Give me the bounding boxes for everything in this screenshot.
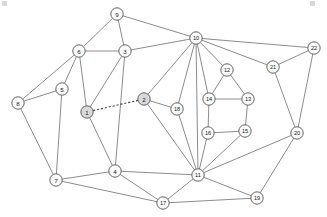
graph-edge-10-14 [197,44,207,93]
graph-node-circle-11[interactable] [192,169,204,181]
graph-node-5[interactable]: 5 [56,83,68,95]
graph-node-circle-17[interactable] [157,197,169,209]
graph-edge-16-15 [214,131,239,132]
graph-node-circle-1[interactable] [81,106,93,118]
graph-edge-20-21 [275,73,295,127]
graph-node-circle-5[interactable] [56,83,68,95]
graph-node-circle-6[interactable] [73,45,85,57]
graph-node-1[interactable]: 1 [81,106,93,118]
graph-edge-8-7 [21,109,54,175]
graph-edge-5-7 [56,95,61,174]
graph-node-circle-2[interactable] [138,93,150,105]
graph-node-16[interactable]: 16 [202,127,214,139]
graph-node-circle-13[interactable] [242,93,254,105]
graph-edge-6-5 [65,57,77,84]
graph-node-4[interactable]: 4 [109,165,121,177]
graph-node-2[interactable]: 2 [138,93,150,105]
graph-edge-10-18 [179,44,195,103]
graph-edge-11-20 [204,135,292,172]
graph-node-11[interactable]: 11 [192,169,204,181]
graph-node-circle-12[interactable] [221,64,233,76]
graph-edge-12-13 [231,75,245,94]
graph-edge-9-6 [83,18,112,46]
node-layer: 12345678910111213141516171819202122 [12,8,320,209]
graph-node-21[interactable]: 21 [267,61,279,73]
graph-edge-3-4 [116,57,125,165]
graph-edge-17-19 [169,198,251,202]
graph-edge-7-17 [62,181,157,201]
graph-node-circle-15[interactable] [239,125,251,137]
graph-edge-4-11 [121,171,192,174]
graph-node-15[interactable]: 15 [239,125,251,137]
graph-edge-6-1 [80,57,86,106]
graph-node-19[interactable]: 19 [251,192,263,204]
graph-node-14[interactable]: 14 [203,93,215,105]
graph-node-10[interactable]: 10 [190,32,202,44]
graph-edge-2-18 [150,101,171,107]
graph-node-circle-19[interactable] [251,192,263,204]
graph-node-circle-7[interactable] [50,174,62,186]
graph-edge-13-15 [246,105,248,125]
graph-edge-3-10 [131,39,190,50]
graph-edge-11-17 [168,179,193,199]
graph-node-circle-21[interactable] [267,61,279,73]
graph-canvas: 12345678910111213141516171819202122 [0,0,327,217]
graph-edge-4-17 [120,174,158,199]
graph-edge-12-14 [212,75,223,93]
graph-node-7[interactable]: 7 [50,174,62,186]
graph-node-3[interactable]: 3 [119,45,131,57]
graph-svg: 12345678910111213141516171819202122 [0,0,327,217]
graph-edge-14-16 [208,105,209,127]
graph-edge-10-12 [200,42,222,65]
graph-node-circle-8[interactable] [12,97,24,109]
graph-edge-9-10 [123,16,190,36]
graph-edge-5-8 [24,91,56,101]
graph-node-18[interactable]: 18 [171,103,183,115]
graph-node-6[interactable]: 6 [73,45,85,57]
graph-node-22[interactable]: 22 [308,42,320,54]
graph-edge-2-10 [148,43,192,95]
graph-node-circle-10[interactable] [190,32,202,44]
graph-node-circle-9[interactable] [111,8,123,20]
graph-node-9[interactable]: 9 [111,8,123,20]
graph-node-circle-20[interactable] [291,127,303,139]
graph-edge-21-22 [279,51,309,65]
graph-node-circle-18[interactable] [171,103,183,115]
graph-node-13[interactable]: 13 [242,93,254,105]
graph-edge-10-21 [202,40,267,65]
graph-edge-7-4 [62,172,109,179]
graph-edge-10-11 [196,44,198,169]
graph-edge-20-22 [298,54,313,127]
graph-edge-11-19 [204,177,251,196]
graph-edge-16-11 [199,139,206,169]
graph-edge-1-2 [93,100,138,110]
graph-node-circle-14[interactable] [203,93,215,105]
graph-edge-9-3 [118,20,123,45]
graph-edge-1-4 [90,118,113,166]
graph-edge-3-1 [90,56,121,106]
graph-node-17[interactable]: 17 [157,197,169,209]
graph-edge-2-11 [148,104,195,170]
graph-node-20[interactable]: 20 [291,127,303,139]
graph-node-circle-16[interactable] [202,127,214,139]
graph-edge-18-11 [179,115,196,169]
graph-node-12[interactable]: 12 [221,64,233,76]
graph-node-circle-4[interactable] [109,165,121,177]
graph-node-circle-3[interactable] [119,45,131,57]
edge-layer [21,16,313,203]
graph-node-circle-22[interactable] [308,42,320,54]
graph-node-8[interactable]: 8 [12,97,24,109]
